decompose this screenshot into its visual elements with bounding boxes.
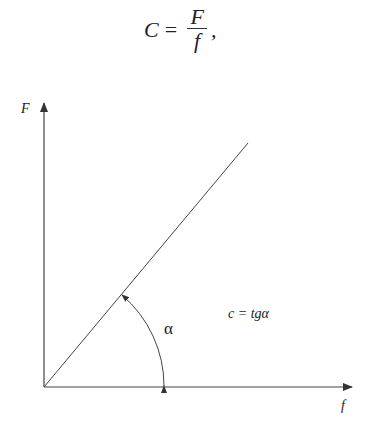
y-axis-label: F (21, 101, 30, 117)
relation-label: c = tgα (228, 306, 269, 322)
angle-label: α (164, 319, 173, 339)
force-deflection-diagram (0, 0, 370, 423)
x-axis-label: f (341, 398, 345, 414)
characteristic-line (44, 143, 248, 387)
angle-arc (122, 295, 164, 386)
